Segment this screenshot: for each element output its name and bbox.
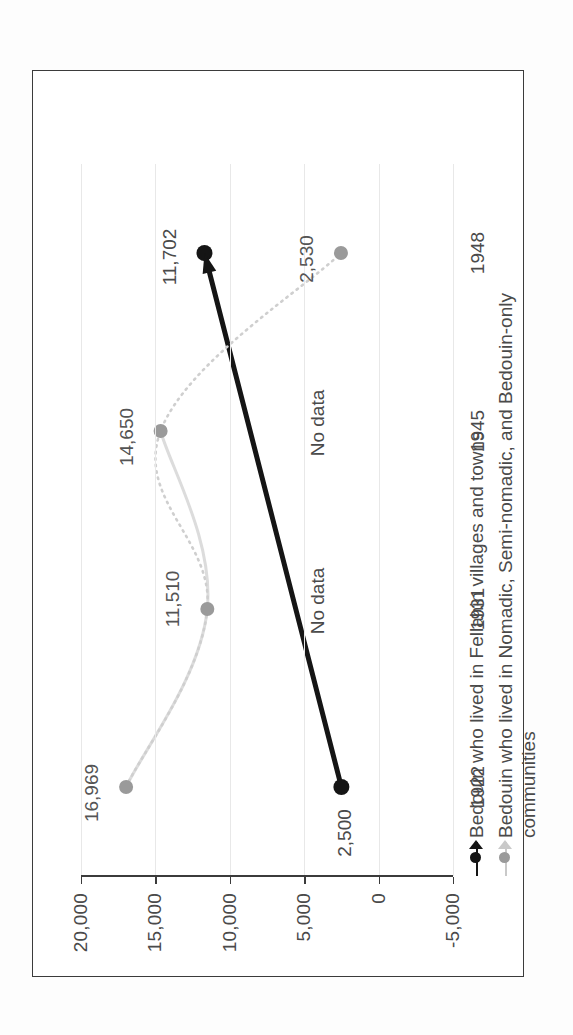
data-point-label: 2,500 xyxy=(334,809,356,857)
grey-line-dot-marker xyxy=(494,842,516,876)
data-point-marker[interactable] xyxy=(333,779,349,795)
gridline xyxy=(230,164,231,876)
data-point-label: 2,530 xyxy=(296,235,318,283)
axis-tick-label: 10,000 xyxy=(219,893,241,952)
gridline xyxy=(155,164,156,876)
category-label: 1931 xyxy=(467,588,489,630)
data-point-label: 16,969 xyxy=(81,764,103,822)
legend-item-1[interactable]: Bedouin who lived in Nomadic, Semi-nomad… xyxy=(494,164,540,876)
data-point-label: 14,650 xyxy=(116,408,138,466)
gridline xyxy=(379,164,380,876)
axis-tick xyxy=(304,877,305,884)
no-data-label: No data xyxy=(307,568,329,635)
axis-tick-label: 15,000 xyxy=(144,893,166,952)
data-point-label: 11,702 xyxy=(159,229,181,286)
series-line xyxy=(205,253,342,787)
no-data-label: No data xyxy=(307,390,329,457)
plot-area: 2,500No dataNo data11,70216,96911,51014,… xyxy=(81,164,453,876)
axis-tick xyxy=(81,877,82,884)
chart-frame: 2,500No dataNo data11,70216,96911,51014,… xyxy=(32,70,524,977)
scanned-page: 1948 1962 2,500No dataNo data11,70216,96… xyxy=(0,0,573,1035)
axis-tick xyxy=(453,877,454,884)
series-line xyxy=(126,253,341,787)
axis-tick-label: 20,000 xyxy=(70,893,92,952)
gridline xyxy=(453,164,454,876)
category-label: 1948 xyxy=(467,232,489,274)
value-axis xyxy=(81,875,453,877)
axis-tick xyxy=(379,877,380,884)
data-point-label: 11,510 xyxy=(162,571,184,628)
category-label: 1922 xyxy=(467,766,489,808)
rotated-chart-stage: 2,500No dataNo data11,70216,96911,51014,… xyxy=(0,0,573,1035)
category-label: 1945 xyxy=(467,410,489,452)
black-line-arrow-marker xyxy=(465,842,487,876)
data-point-marker[interactable] xyxy=(119,780,133,794)
axis-tick-label: 5,000 xyxy=(293,893,315,942)
axis-tick xyxy=(155,877,156,884)
series-svg xyxy=(81,164,453,876)
legend-item-1-label: Bedouin who lived in Nomadic, Semi-nomad… xyxy=(494,293,540,838)
axis-tick-label: -5,000 xyxy=(442,893,464,948)
axis-tick-label: 0 xyxy=(368,893,390,904)
data-point-marker[interactable] xyxy=(334,246,348,260)
data-point-marker[interactable] xyxy=(200,602,214,616)
axis-tick xyxy=(230,877,231,884)
